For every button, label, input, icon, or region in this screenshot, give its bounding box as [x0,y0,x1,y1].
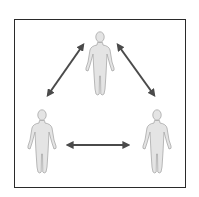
arrow-top-left [48,45,83,95]
relationship-diagram [0,0,199,197]
person-top-icon [86,32,115,95]
person-right-icon [143,110,172,173]
arrow-top-right [118,45,154,95]
person-left-icon [28,110,57,173]
